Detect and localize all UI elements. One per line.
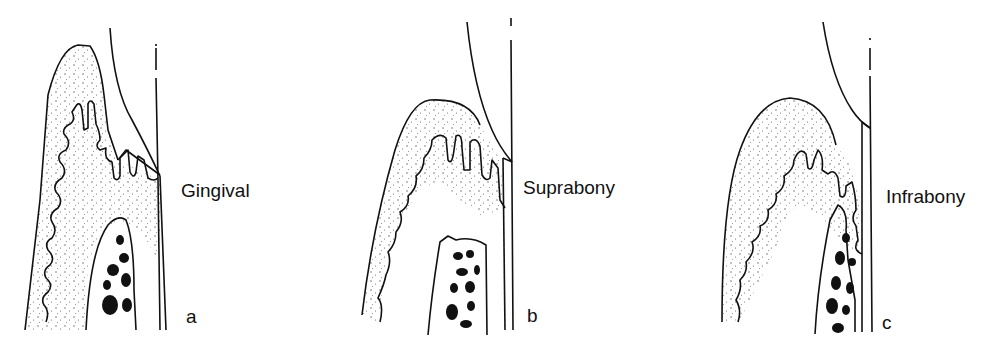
root-surface-inner (160, 176, 166, 330)
panel-letter-b: b (527, 306, 538, 325)
bone-marrow-spaces (446, 250, 480, 328)
root-surface-outer (870, 38, 872, 332)
periodontal-pocket-diagram (0, 0, 1002, 356)
gingiva-fill (722, 98, 862, 322)
label-gingival: Gingival (181, 181, 250, 200)
panel-c-infrabony (722, 22, 872, 334)
enamel-curve (110, 28, 160, 176)
root-surface-inner (503, 158, 505, 330)
bone-marrow-spaces (102, 235, 132, 315)
panel-letter-a: a (186, 307, 197, 326)
panel-letter-c: c (882, 313, 892, 332)
root-surface-outer (511, 18, 513, 330)
panel-b-suprabony (362, 18, 513, 335)
panel-a-gingival (25, 28, 166, 330)
alveolar-bone (428, 236, 487, 335)
label-suprabony: Suprabony (523, 178, 615, 197)
gingiva-outline (25, 45, 160, 330)
label-infrabony: Infrabony (886, 187, 965, 206)
enamel-curve (823, 22, 870, 128)
